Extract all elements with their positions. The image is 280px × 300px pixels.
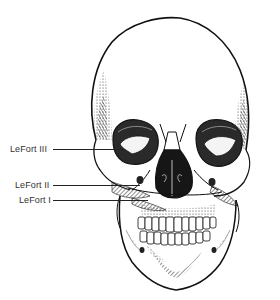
skull-diagram: LeFort III LeFort II LeFort I xyxy=(0,0,280,300)
nasal-aperture xyxy=(155,150,192,198)
label-lefort-3: LeFort III xyxy=(10,144,47,154)
leader-line-lefort-3 xyxy=(53,149,125,150)
leader-line-lefort-2 xyxy=(53,185,140,186)
lower-teeth xyxy=(140,231,210,245)
upper-teeth xyxy=(138,217,216,232)
leader-line-lefort-1 xyxy=(53,200,148,201)
label-lefort-2: LeFort II xyxy=(15,180,49,190)
label-lefort-1: LeFort I xyxy=(19,195,51,205)
